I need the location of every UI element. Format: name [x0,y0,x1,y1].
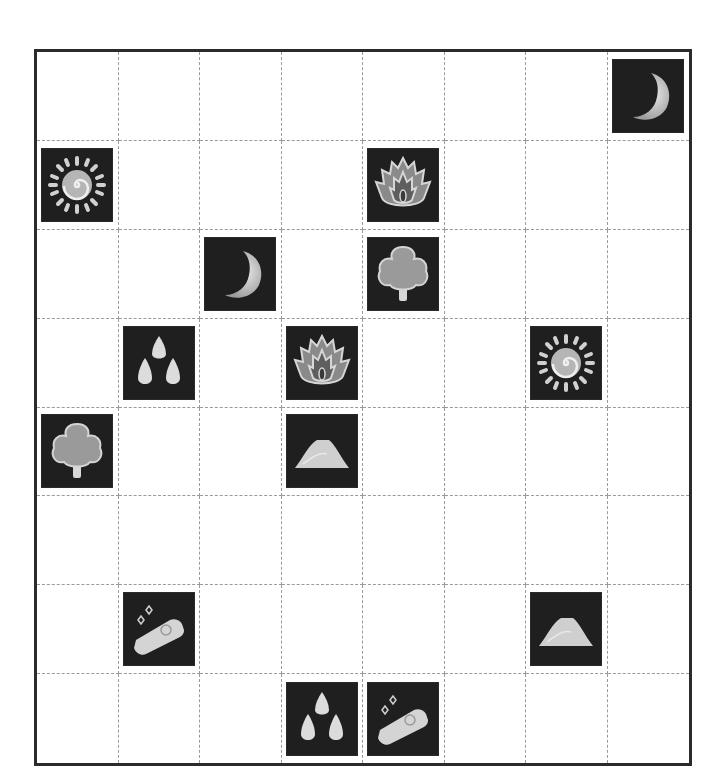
board-cell-r6-c6[interactable] [526,585,608,674]
board-cell-r0-c4[interactable] [363,52,445,141]
tile-tree[interactable] [367,237,439,311]
board-cell-r1-c2[interactable] [200,141,282,230]
tile-gold-bar[interactable] [123,592,195,666]
board-cell-r4-c1[interactable] [119,408,201,497]
board-cell-r6-c5[interactable] [445,585,527,674]
board-cell-r2-c0[interactable] [37,230,119,319]
game-board [34,49,692,766]
board-cell-r1-c4[interactable] [363,141,445,230]
board-cell-r3-c4[interactable] [363,319,445,408]
tile-water-drops[interactable] [123,326,195,400]
board-cell-r5-c4[interactable] [363,496,445,585]
moon-icon [207,241,273,307]
fire-icon [289,330,355,396]
board-cell-r4-c0[interactable] [37,408,119,497]
board-cell-r1-c6[interactable] [526,141,608,230]
board-cell-r1-c0[interactable] [37,141,119,230]
board-cell-r5-c7[interactable] [608,496,690,585]
board-cell-r5-c6[interactable] [526,496,608,585]
tree-icon [44,418,110,484]
board-cell-r7-c6[interactable] [526,674,608,763]
board-cell-r2-c5[interactable] [445,230,527,319]
board-cell-r7-c5[interactable] [445,674,527,763]
board-cell-r7-c3[interactable] [282,674,364,763]
gold-bar-icon [370,686,436,752]
board-cell-r3-c0[interactable] [37,319,119,408]
board-cell-r3-c3[interactable] [282,319,364,408]
board-cell-r0-c0[interactable] [37,52,119,141]
board-cell-r4-c5[interactable] [445,408,527,497]
board-cell-r6-c1[interactable] [119,585,201,674]
board-cell-r6-c4[interactable] [363,585,445,674]
board-cell-r0-c7[interactable] [608,52,690,141]
board-cell-r3-c5[interactable] [445,319,527,408]
tile-fire[interactable] [367,148,439,222]
board-cell-r0-c6[interactable] [526,52,608,141]
board-cell-r2-c2[interactable] [200,230,282,319]
sun-icon [533,330,599,396]
board-cell-r1-c5[interactable] [445,141,527,230]
board-cell-r2-c6[interactable] [526,230,608,319]
board-cell-r4-c2[interactable] [200,408,282,497]
board-cell-r3-c6[interactable] [526,319,608,408]
board-cell-r5-c3[interactable] [282,496,364,585]
board-cell-r5-c5[interactable] [445,496,527,585]
board-cell-r2-c7[interactable] [608,230,690,319]
board-cell-r3-c2[interactable] [200,319,282,408]
board-cell-r2-c3[interactable] [282,230,364,319]
board-cell-r6-c2[interactable] [200,585,282,674]
tile-water-drops[interactable] [286,682,358,756]
board-cell-r7-c4[interactable] [363,674,445,763]
board-cell-r1-c3[interactable] [282,141,364,230]
tile-moon[interactable] [204,237,276,311]
board-cell-r4-c7[interactable] [608,408,690,497]
board-cell-r4-c6[interactable] [526,408,608,497]
water-drops-icon [289,686,355,752]
board-cell-r6-c3[interactable] [282,585,364,674]
board-cell-r7-c1[interactable] [119,674,201,763]
tile-fire[interactable] [286,326,358,400]
tile-sun[interactable] [530,326,602,400]
board-cell-r7-c2[interactable] [200,674,282,763]
tile-sun[interactable] [41,148,113,222]
board-cell-r7-c7[interactable] [608,674,690,763]
tile-tree[interactable] [41,414,113,488]
board-cell-r5-c2[interactable] [200,496,282,585]
board-cell-r0-c1[interactable] [119,52,201,141]
sand-pile-icon [289,418,355,484]
tree-icon [370,241,436,307]
board-cell-r2-c4[interactable] [363,230,445,319]
board-cell-r4-c3[interactable] [282,408,364,497]
tile-sand-pile[interactable] [286,414,358,488]
board-cell-r0-c3[interactable] [282,52,364,141]
board-cell-r3-c7[interactable] [608,319,690,408]
board-cell-r7-c0[interactable] [37,674,119,763]
fire-icon [370,152,436,218]
moon-icon [615,63,681,129]
board-cell-r1-c7[interactable] [608,141,690,230]
sand-pile-icon [533,596,599,662]
board-cell-r5-c1[interactable] [119,496,201,585]
board-cell-r6-c0[interactable] [37,585,119,674]
board-cell-r0-c2[interactable] [200,52,282,141]
board-cell-r6-c7[interactable] [608,585,690,674]
gold-bar-icon [126,596,192,662]
board-cell-r0-c5[interactable] [445,52,527,141]
tile-sand-pile[interactable] [530,592,602,666]
board-cell-r4-c4[interactable] [363,408,445,497]
sun-icon [44,152,110,218]
board-cell-r2-c1[interactable] [119,230,201,319]
board-cell-r3-c1[interactable] [119,319,201,408]
water-drops-icon [126,330,192,396]
tile-gold-bar[interactable] [367,682,439,756]
tile-moon[interactable] [612,59,684,133]
board-cell-r5-c0[interactable] [37,496,119,585]
board-cell-r1-c1[interactable] [119,141,201,230]
